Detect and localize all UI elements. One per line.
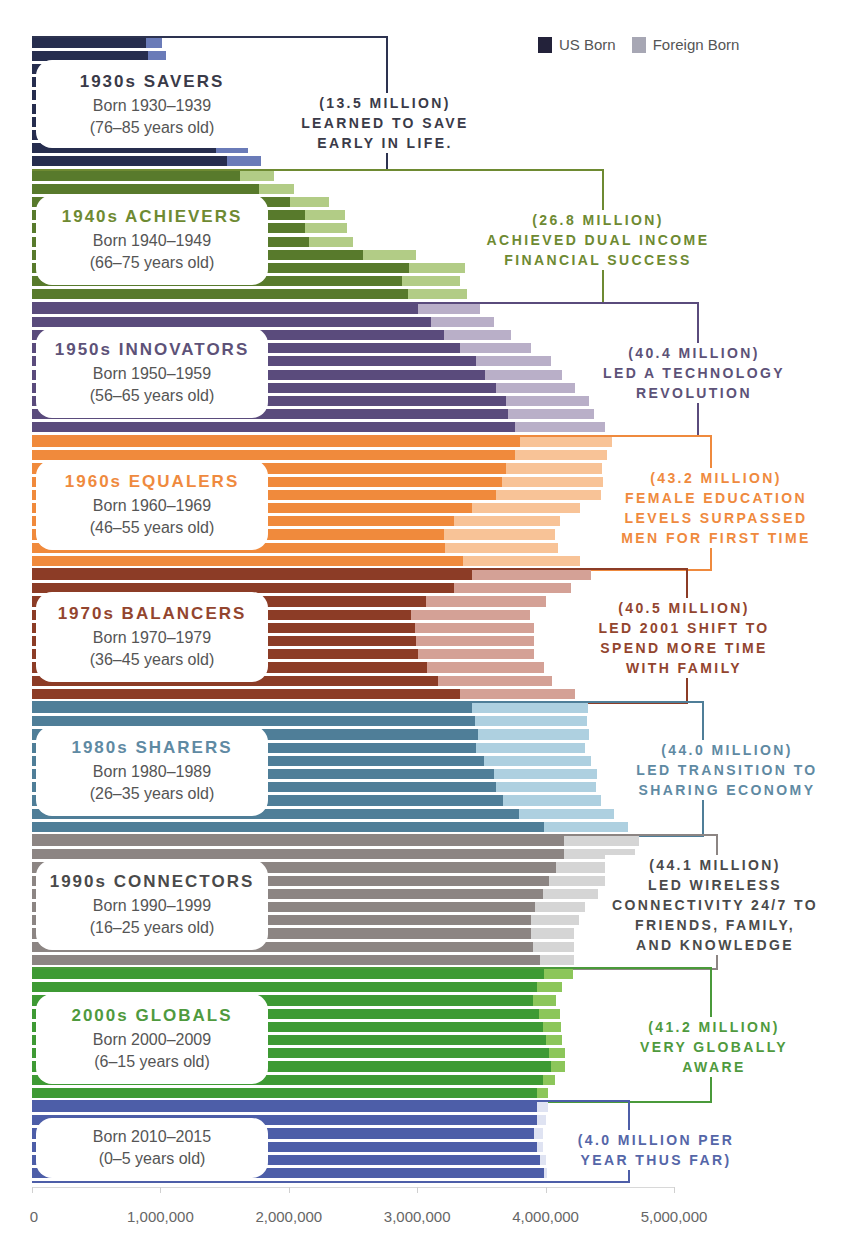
bar-foreign-born (416, 636, 534, 646)
annotation-line: (40.5 MILLION) (579, 598, 789, 618)
x-axis-tick (417, 1187, 418, 1193)
bar-foreign-born (540, 955, 573, 965)
birth-years: Born 2000–2009 (36, 1029, 268, 1051)
bar-foreign-born (472, 503, 580, 513)
bar-row (32, 836, 639, 846)
annotation-line: MEN FOR FIRST TIME (606, 528, 826, 548)
bar-foreign-born (537, 1142, 543, 1152)
x-axis-tick-label: 3,000,000 (384, 1208, 451, 1225)
annotation-line: FINANCIAL SUCCESS (468, 250, 728, 270)
annotation-line: (44.0 MILLION) (622, 740, 832, 760)
bar-foreign-born (537, 1115, 546, 1125)
bar-foreign-born (564, 836, 640, 846)
bar-foreign-born (534, 1128, 543, 1138)
bar-us-born (32, 689, 460, 699)
bar-foreign-born (240, 171, 274, 181)
bar-foreign-born (508, 409, 594, 419)
bar-foreign-born (506, 396, 589, 406)
generation-title: 1950s INNOVATORS (36, 340, 268, 360)
x-axis-tick-label: 5,000,000 (641, 1208, 708, 1225)
age-range: (26–35 years old) (36, 783, 268, 805)
generation-title: 1960s EQUALERS (36, 472, 268, 492)
bar-foreign-born (484, 756, 591, 766)
bar-us-born (32, 184, 259, 194)
generation-annotation: (41.2 MILLION)VERY GLOBALLYAWARE (614, 1017, 814, 1077)
bar-foreign-born (259, 184, 294, 194)
bar-foreign-born (305, 210, 345, 220)
bar-row (32, 955, 574, 965)
birth-years: Born 1990–1999 (36, 895, 268, 917)
bar-us-born (32, 982, 537, 992)
generation-annotation: (40.5 MILLION)LED 2001 SHIFT TOSPEND MOR… (579, 598, 789, 678)
bar-foreign-born (454, 583, 571, 593)
age-range: (6–15 years old) (36, 1051, 268, 1073)
bar-foreign-born (496, 782, 596, 792)
age-range: (76–85 years old) (36, 117, 268, 139)
age-range: (16–25 years old) (36, 917, 268, 939)
legend-item-us-born: US Born (538, 36, 616, 53)
bar-us-born (32, 317, 431, 327)
generation-annotation: (44.1 MILLION)LED WIRELESSCONNECTIVITY 2… (605, 855, 825, 955)
annotation-line: (44.1 MILLION) (605, 855, 825, 875)
bar-foreign-born (454, 516, 559, 526)
legend-item-foreign-born: Foreign Born (632, 36, 740, 53)
generation-title: 1990s CONNECTORS (36, 872, 268, 892)
x-axis-tick-label: 2,000,000 (255, 1208, 322, 1225)
generation-label-card: 1980s SHARERSBorn 1980–1989(26–35 years … (36, 726, 268, 816)
bar-foreign-born (146, 38, 162, 48)
bar-foreign-born (444, 330, 511, 340)
bar-foreign-born (544, 822, 627, 832)
annotation-line: CONNECTIVITY 24/7 TO (605, 895, 825, 915)
bar-foreign-born (475, 716, 587, 726)
bar-us-born (32, 969, 544, 979)
birth-years: Born 2010–2015 (36, 1126, 268, 1148)
bar-foreign-born (305, 223, 346, 233)
bar-us-born (32, 556, 463, 566)
bar-us-born (32, 570, 472, 580)
x-axis-tick (32, 1187, 33, 1193)
generation-label-card: 1990s CONNECTORSBorn 1990–1999(16–25 yea… (36, 860, 268, 950)
generation-label-card: 1970s BALANCERSBorn 1970–1979(36–45 year… (36, 592, 268, 682)
bar-us-born (32, 716, 475, 726)
annotation-line: LED 2001 SHIFT TO (579, 618, 789, 638)
generation-title: 1970s BALANCERS (36, 604, 268, 624)
x-axis-tick (160, 1187, 161, 1193)
annotation-line: LED WIRELESS (605, 875, 825, 895)
generation-label-card: 1950s INNOVATORSBorn 1950–1959(56–65 yea… (36, 328, 268, 418)
bar-us-born (32, 822, 544, 832)
bar-row (32, 184, 294, 194)
bar-foreign-born (494, 769, 597, 779)
bar-foreign-born (444, 529, 554, 539)
bar-foreign-born (485, 370, 562, 380)
bar-foreign-born (418, 304, 480, 314)
bar-us-born (32, 836, 564, 846)
birth-years: Born 1970–1979 (36, 627, 268, 649)
bar-foreign-born (309, 237, 353, 247)
generation-title: 2000s GLOBALS (36, 1006, 268, 1026)
bar-foreign-born (460, 689, 576, 699)
bar-foreign-born (549, 876, 608, 886)
bar-us-born (32, 422, 515, 432)
bar-row (32, 422, 605, 432)
bar-foreign-born (445, 543, 558, 553)
bar-foreign-born (476, 743, 585, 753)
generation-label-card: 1960s EQUALERSBorn 1960–1969(46–55 years… (36, 460, 268, 550)
generation-title: 1940s ACHIEVERS (36, 207, 268, 227)
bar-foreign-born (472, 703, 588, 713)
bar-row (32, 437, 612, 447)
generation-annotation: (40.4 MILLION)LED A TECHNOLOGYREVOLUTION (589, 343, 799, 403)
annotation-line: LEARNED TO SAVE (285, 113, 485, 133)
bar-us-born (32, 955, 540, 965)
bar-foreign-born (496, 490, 601, 500)
bar-us-born (32, 156, 227, 166)
bar-foreign-born (503, 795, 601, 805)
bar-foreign-born (531, 928, 573, 938)
bar-foreign-born (460, 343, 532, 353)
x-axis-tick (289, 1187, 290, 1193)
annotation-line: LED A TECHNOLOGY (589, 363, 799, 383)
annotation-line: SHARING ECONOMY (622, 780, 832, 800)
bar-foreign-born (426, 596, 545, 606)
bar-row (32, 556, 580, 566)
generation-annotation: (13.5 MILLION)LEARNED TO SAVEEARLY IN LI… (285, 93, 485, 153)
bar-foreign-born (544, 969, 572, 979)
